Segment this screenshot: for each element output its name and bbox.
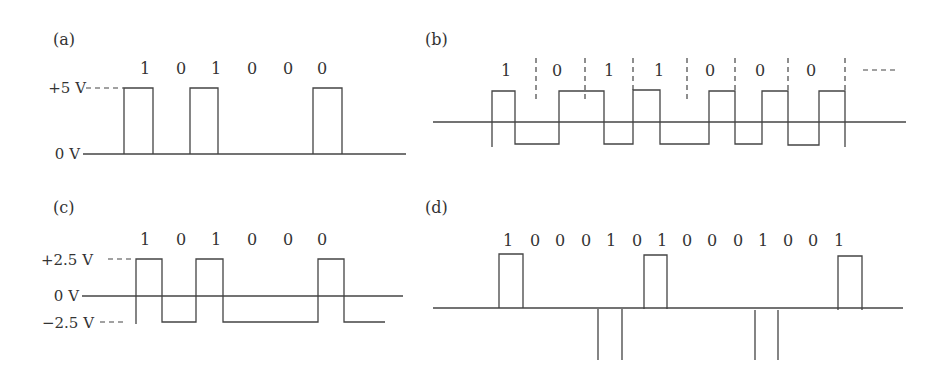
bit-label: 0 [707, 231, 717, 250]
bit-label: 1 [758, 231, 768, 250]
bit-label: 1 [140, 230, 150, 249]
voltage-level-label: 0 V [55, 145, 81, 163]
panel-d: (d)10001010001001 [425, 198, 903, 360]
bit-label: 0 [783, 231, 793, 250]
voltage-level-label: −2.5 V [42, 314, 95, 332]
panel-label: (c) [53, 198, 74, 217]
bit-label: 0 [555, 231, 565, 250]
bit-label: 0 [530, 231, 540, 250]
bit-label: 1 [604, 61, 614, 80]
bit-label: 0 [283, 59, 293, 78]
bit-label: 0 [176, 59, 186, 78]
signal-waveform [492, 90, 845, 147]
bit-label: 1 [657, 231, 667, 250]
bit-label: 0 [632, 231, 642, 250]
bit-label: 0 [755, 61, 765, 80]
panel-b: (b)1011000 [425, 30, 906, 147]
panel-label: (d) [425, 198, 448, 217]
bit-label: 1 [834, 231, 844, 250]
waveform-canvas: (a)101000+5 V0 V(b)1011000(c)101000+2.5 … [0, 0, 940, 374]
bit-label: 1 [211, 59, 221, 78]
signal-waveform [499, 254, 862, 360]
bit-label: 0 [317, 230, 327, 249]
panel-label: (a) [53, 30, 75, 49]
bit-label: 0 [552, 61, 562, 80]
bit-label: 1 [606, 231, 616, 250]
bit-label: 1 [503, 231, 513, 250]
line-coding-diagram: (a)101000+5 V0 V(b)1011000(c)101000+2.5 … [0, 0, 940, 374]
signal-waveform [136, 259, 385, 324]
panel-label: (b) [425, 30, 448, 49]
bit-label: 0 [247, 230, 257, 249]
panel-a: (a)101000+5 V0 V [48, 30, 406, 163]
bit-label: 1 [140, 59, 150, 78]
bit-label: 0 [283, 230, 293, 249]
bit-label: 0 [682, 231, 692, 250]
bit-label: 1 [501, 61, 511, 80]
bit-label: 1 [654, 61, 664, 80]
bit-label: 0 [705, 61, 715, 80]
voltage-level-label: +2.5 V [41, 251, 94, 269]
panel-c: (c)101000+2.5 V0 V−2.5 V [41, 198, 403, 332]
bit-label: 0 [317, 59, 327, 78]
voltage-level-label: 0 V [54, 287, 80, 305]
signal-waveform [124, 88, 342, 154]
bit-label: 0 [176, 230, 186, 249]
bit-label: 0 [581, 231, 591, 250]
bit-label: 1 [211, 230, 221, 249]
bit-label: 0 [733, 231, 743, 250]
bit-label: 0 [247, 59, 257, 78]
bit-label: 0 [808, 231, 818, 250]
bit-label: 0 [806, 61, 816, 80]
voltage-level-label: +5 V [48, 79, 87, 97]
